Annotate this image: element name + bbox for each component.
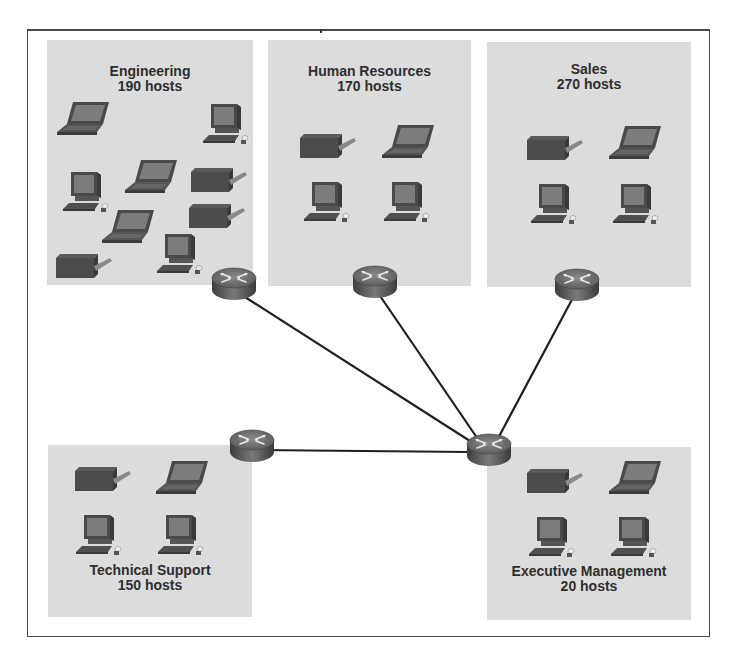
zone-executive-management: Executive Management 20 hosts	[487, 447, 691, 620]
laptop-icon	[607, 124, 663, 160]
pc-icon	[156, 513, 208, 557]
printer-icon	[189, 164, 247, 194]
zone-hosts: 270 hosts	[487, 77, 691, 92]
zone-hosts: 150 hosts	[48, 578, 252, 593]
pc-icon	[382, 180, 434, 224]
frame-tick-mark	[320, 29, 322, 33]
router-icon[interactable]	[210, 266, 258, 302]
zone-hosts: 20 hosts	[487, 579, 691, 594]
pc-icon	[155, 232, 207, 276]
zone-human-resources-title: Human Resources 170 hosts	[268, 64, 471, 94]
zone-name: Engineering	[47, 64, 253, 79]
zone-hosts: 170 hosts	[268, 79, 471, 94]
router-icon[interactable]	[465, 432, 513, 468]
pc-icon	[609, 515, 661, 559]
laptop-icon	[154, 459, 210, 495]
laptop-icon	[123, 158, 179, 194]
pc-icon	[527, 515, 579, 559]
zone-executive-management-title: Executive Management 20 hosts	[487, 564, 691, 594]
laptop-icon	[607, 459, 663, 495]
pc-icon	[74, 513, 126, 557]
printer-icon	[54, 250, 112, 280]
zone-sales: Sales 270 hosts	[487, 42, 691, 287]
pc-icon	[302, 180, 354, 224]
zone-name: Sales	[487, 62, 691, 77]
zone-technical-support-title: Technical Support 150 hosts	[48, 563, 252, 593]
zone-engineering: Engineering 190 hosts	[47, 40, 253, 285]
printer-icon	[298, 130, 356, 160]
zone-hosts: 190 hosts	[47, 79, 253, 94]
zone-sales-title: Sales 270 hosts	[487, 62, 691, 92]
printer-icon	[187, 200, 245, 230]
pc-icon	[611, 182, 663, 226]
laptop-icon	[380, 123, 436, 159]
zone-name: Executive Management	[487, 564, 691, 579]
zone-name: Technical Support	[48, 563, 252, 578]
printer-icon	[73, 463, 131, 493]
printer-icon	[525, 132, 583, 162]
router-icon[interactable]	[351, 264, 399, 300]
zone-technical-support: Technical Support 150 hosts	[48, 445, 252, 617]
zone-engineering-title: Engineering 190 hosts	[47, 64, 253, 94]
router-icon[interactable]	[228, 428, 276, 464]
zone-name: Human Resources	[268, 64, 471, 79]
laptop-icon	[55, 100, 111, 136]
printer-icon	[525, 465, 583, 495]
laptop-icon	[100, 208, 156, 244]
router-icon[interactable]	[553, 267, 601, 303]
zone-human-resources: Human Resources 170 hosts	[268, 40, 471, 286]
pc-icon	[201, 102, 253, 146]
pc-icon	[529, 182, 581, 226]
